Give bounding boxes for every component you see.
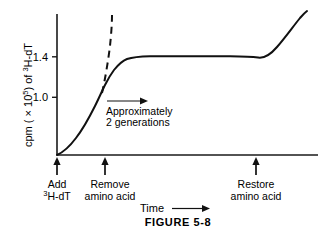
- event-label-remove-line2: amino acid: [85, 190, 136, 202]
- event-marker-remove-amino-acid: [101, 157, 108, 175]
- y-tick-label-1-0: 1.0: [33, 91, 48, 103]
- figure-container: 1.4 1.0 cpm ( × 105) of 3H-dT Approximat…: [0, 0, 333, 232]
- event-marker-add: [53, 157, 60, 175]
- event-label-add-line2: 3H-dT: [43, 189, 71, 203]
- svg-text:cpm ( × 105) of 3H-dT: cpm ( × 105) of 3H-dT: [21, 43, 35, 147]
- plot-area: 1.4 1.0 cpm ( × 105) of 3H-dT Approximat…: [0, 0, 333, 232]
- event-label-restore-line1: Restore: [238, 178, 275, 190]
- y-tick-label-1-4: 1.4: [33, 51, 48, 63]
- y-axis-title-prefix: cpm ( × 10: [22, 95, 34, 147]
- data-curve-solid: [57, 11, 307, 155]
- event-marker-restore-amino-acid: [252, 157, 259, 175]
- y-axis-title: cpm ( × 105) of 3H-dT: [21, 43, 35, 147]
- event-label-remove-line1: Remove: [90, 178, 129, 190]
- generations-span-arrow: [107, 98, 148, 105]
- annotation-generations-line2: 2 generations: [106, 116, 170, 128]
- x-axis-title: Time: [140, 202, 164, 214]
- time-direction-arrow: [172, 205, 210, 212]
- y-axis-title-suffix: ) of: [22, 72, 34, 91]
- y-axis-title-isotope: H-dT: [22, 43, 34, 68]
- event-label-add-line1: Add: [48, 178, 67, 190]
- figure-caption: FIGURE 5-8: [145, 216, 212, 228]
- event-label-add-isotope: H-dT: [47, 190, 71, 202]
- event-label-restore-line2: amino acid: [231, 190, 282, 202]
